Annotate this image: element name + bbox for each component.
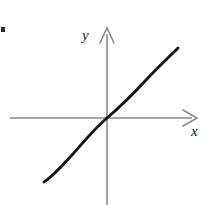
coordinate-plot <box>0 0 210 205</box>
graph-figure: y x <box>0 0 210 205</box>
y-axis-label: y <box>82 28 89 43</box>
x-axis-label: x <box>191 124 198 139</box>
function-curve <box>44 48 178 182</box>
